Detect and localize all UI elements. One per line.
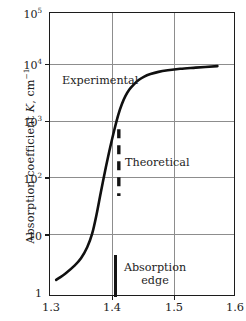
chart-figure: Absorption coefficient K, cm−1 105 104 1… bbox=[0, 0, 246, 321]
annotation-absorption-edge: Absorption edge bbox=[119, 262, 191, 287]
y-axis-title-symbol: K bbox=[23, 104, 36, 112]
plot-area: Experimental Theoretical Absorption edge bbox=[49, 12, 235, 296]
y-tick-label-10: 10 bbox=[6, 228, 42, 243]
annotation-absorption-edge-line2: edge bbox=[119, 275, 191, 288]
theoretical-line bbox=[50, 13, 236, 297]
absorption-edge-marker bbox=[114, 255, 117, 297]
annotation-experimental: Experimental bbox=[62, 75, 138, 88]
x-tick-label-1-5: 1.5 bbox=[152, 300, 196, 314]
x-tick-label-1-6: 1.6 bbox=[213, 300, 246, 314]
y-tick-label-100: 102 bbox=[6, 171, 42, 186]
annotation-absorption-edge-line1: Absorption bbox=[119, 262, 191, 275]
annotation-theoretical: Theoretical bbox=[125, 157, 190, 170]
y-tick-label-10000: 104 bbox=[6, 57, 42, 72]
y-tick-label-100000: 105 bbox=[6, 6, 42, 21]
y-axis-title-suffix: , cm bbox=[23, 79, 36, 103]
y-tick-label-1: 1 bbox=[6, 285, 42, 300]
x-tick-label-1-3: 1.3 bbox=[29, 300, 73, 314]
x-tick-label-1-4: 1.4 bbox=[90, 300, 134, 314]
y-tick-label-1000: 103 bbox=[6, 114, 42, 129]
